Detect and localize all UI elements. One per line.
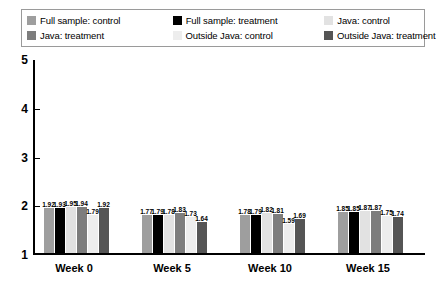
chart-figure: Full sample: control Full sample: treatm… (0, 0, 442, 294)
bar: 1.95 (66, 207, 76, 253)
legend-swatch-outside-java-control (173, 31, 182, 40)
bar-value-label: 1.64 (195, 215, 208, 222)
bar-value-label: 1.74 (391, 210, 404, 217)
bar: 1.83 (175, 213, 185, 253)
bar-group: 1.851.851.871.871.751.74 (338, 60, 403, 253)
bar: 1.59 (284, 224, 294, 253)
legend-swatch-full-sample-control (27, 16, 36, 25)
bar: 1.92 (44, 208, 54, 253)
bar: 1.75 (382, 216, 392, 253)
bar: 1.74 (393, 217, 403, 253)
bar-group: 1.771.791.781.831.731.64 (142, 60, 207, 253)
bar: 1.73 (186, 217, 196, 253)
bar: 1.77 (142, 215, 152, 253)
bar: 1.85 (349, 212, 359, 253)
bar: 1.85 (338, 212, 348, 253)
bar: 1.79 (153, 215, 163, 254)
x-axis-label: Week 5 (153, 262, 191, 274)
bar: 1.78 (164, 215, 174, 253)
bar-value-label: 1.81 (271, 207, 284, 214)
legend-label-outside-java-treatment: Outside Java: treatment (337, 30, 436, 41)
legend-row-1: Full sample: control Full sample: treatm… (27, 13, 424, 28)
legend-label-outside-java-control: Outside Java: control (186, 30, 273, 41)
legend-label-full-sample-treatment: Full sample: treatment (186, 15, 278, 26)
y-axis-tick-label: 5 (4, 54, 28, 66)
y-axis-tick-label: 1 (4, 249, 28, 261)
y-axis-tick-label: 3 (4, 152, 28, 164)
bar-value-label: 1.79 (86, 208, 99, 215)
bar: 1.69 (295, 219, 305, 253)
legend-label-java-treatment: Java: treatment (40, 30, 104, 41)
bar-value-label: 1.69 (293, 212, 306, 219)
legend-swatch-outside-java-treatment (324, 31, 333, 40)
legend-item-full-sample-treatment: Full sample: treatment (173, 13, 325, 28)
plot-inner: 123451.921.931.951.941.791.921.771.791.7… (35, 60, 425, 253)
x-axis-label: Week 15 (346, 262, 390, 274)
bar: 1.87 (371, 211, 381, 253)
legend-label-full-sample-control: Full sample: control (40, 15, 120, 26)
bar: 1.87 (360, 211, 370, 253)
legend-row-2: Java: treatment Outside Java: control Ou… (27, 28, 424, 43)
bar-group: 1.781.791.821.811.591.69 (240, 60, 305, 253)
plot-area: 123451.921.931.951.941.791.921.771.791.7… (33, 60, 425, 255)
legend-item-outside-java-control: Outside Java: control (173, 28, 324, 43)
x-axis-label: Week 10 (248, 262, 292, 274)
bar: 1.79 (251, 215, 261, 254)
bar: 1.64 (197, 222, 207, 253)
legend-item-outside-java-treatment: Outside Java: treatment (324, 28, 424, 43)
legend-label-java-control: Java: control (337, 15, 390, 26)
bar: 1.92 (99, 208, 109, 253)
bar: 1.78 (240, 215, 250, 253)
y-axis-tick-label: 4 (4, 103, 28, 115)
bar-group: 1.921.931.951.941.791.92 (44, 60, 109, 253)
y-axis-tick-mark (35, 158, 40, 159)
y-axis-tick-mark (35, 109, 40, 110)
legend-swatch-java-control (324, 16, 333, 25)
legend-swatch-java-treatment (27, 31, 36, 40)
bar-value-label: 1.92 (97, 201, 110, 208)
bar: 1.93 (55, 208, 65, 253)
legend-item-java-control: Java: control (324, 13, 424, 28)
y-axis-tick-label: 2 (4, 200, 28, 212)
bar: 1.79 (88, 215, 98, 254)
bar: 1.82 (262, 213, 272, 253)
legend-item-java-treatment: Java: treatment (27, 28, 173, 43)
chart-legend: Full sample: control Full sample: treatm… (21, 9, 425, 47)
y-axis-tick-mark (35, 206, 40, 207)
x-axis-label: Week 0 (55, 262, 93, 274)
legend-swatch-full-sample-treatment (173, 16, 182, 25)
bar-value-label: 1.94 (75, 200, 88, 207)
legend-item-full-sample-control: Full sample: control (27, 13, 173, 28)
bar: 1.94 (77, 207, 87, 253)
bar: 1.81 (273, 214, 283, 253)
